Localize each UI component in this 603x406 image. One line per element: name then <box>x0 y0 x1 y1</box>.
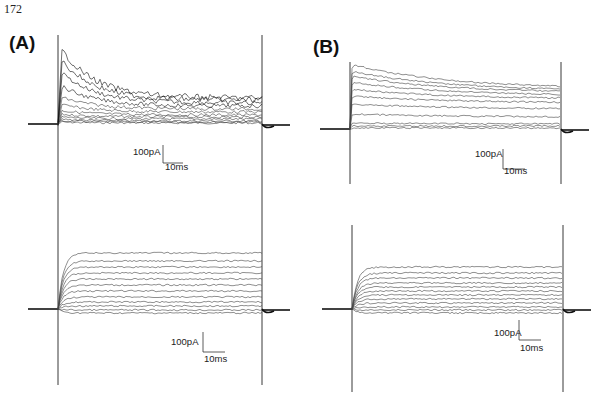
scale-bar-current-label: 100pA <box>475 148 503 159</box>
current-traces-figure: 100pA10ms 100pA10ms 100pA10ms 100pA10ms <box>0 0 603 406</box>
scale-bar-time-label: 10ms <box>204 353 227 364</box>
scale-bar-current-label: 100pA <box>171 336 199 347</box>
current-trace <box>352 277 562 309</box>
scale-bar-time-label: 10ms <box>520 342 543 353</box>
current-trace <box>350 127 560 129</box>
current-trace <box>350 114 560 130</box>
current-trace <box>58 301 262 309</box>
current-trace <box>352 306 562 310</box>
current-trace <box>58 309 262 311</box>
current-trace <box>352 298 562 309</box>
current-trace <box>350 96 560 129</box>
current-trace <box>58 278 262 309</box>
current-trace <box>350 65 560 128</box>
scale-bar: 100pA10ms <box>475 148 527 176</box>
scale-bar-current-label: 100pA <box>133 146 161 157</box>
plot-a-top: 100pA10ms <box>28 35 290 200</box>
current-trace <box>352 308 562 311</box>
scale-bar: 100pA10ms <box>133 145 188 172</box>
scale-bar-current-label: 100pA <box>494 327 522 338</box>
current-trace <box>350 83 560 130</box>
current-trace <box>58 50 262 123</box>
current-trace <box>58 305 262 309</box>
scale-bar: 100pA10ms <box>171 332 227 364</box>
scale-bar-time-label: 10ms <box>504 165 527 176</box>
plot-b-bottom: 100pA10ms <box>322 225 591 392</box>
scale-bar-time-label: 10ms <box>165 161 188 172</box>
current-trace <box>352 302 562 309</box>
plot-a-bottom: 100pA10ms <box>28 200 290 385</box>
current-trace <box>58 252 262 310</box>
current-trace <box>352 286 562 308</box>
plot-b-top: 100pA10ms <box>320 62 589 184</box>
scale-bar: 100pA10ms <box>494 320 543 353</box>
current-trace <box>350 125 560 128</box>
